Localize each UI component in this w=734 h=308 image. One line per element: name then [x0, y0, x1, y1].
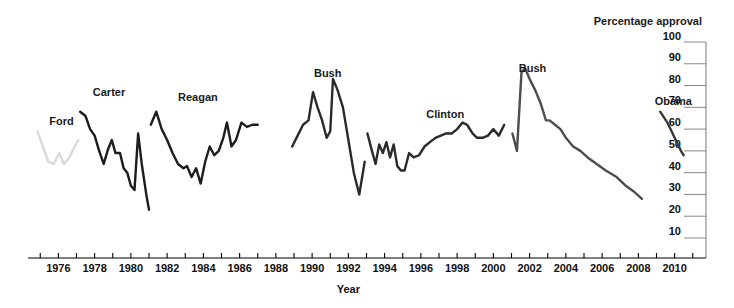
x-axis-title: Year — [337, 283, 361, 295]
x-tick-label: 1996 — [409, 262, 433, 274]
x-tick-label: 2004 — [554, 262, 579, 274]
y-tick-label: 80 — [669, 73, 681, 85]
x-tick-label: 1980 — [119, 262, 143, 274]
y-tick-label: 40 — [669, 160, 681, 172]
x-tick-label: 2010 — [662, 262, 686, 274]
series-label-ford: Ford — [49, 115, 73, 127]
series-label-carter: Carter — [93, 86, 126, 98]
y-tick-label: 90 — [669, 51, 681, 63]
series-line-clinton — [367, 123, 504, 171]
series-line-bush — [292, 79, 365, 194]
y-tick-label: 20 — [669, 203, 681, 215]
x-tick-label: 1976 — [46, 262, 70, 274]
series-line-carter — [80, 112, 149, 210]
x-tick-label: 1982 — [155, 262, 179, 274]
x-tick-label: 1992 — [336, 262, 360, 274]
y-tick-label: 30 — [669, 181, 681, 193]
x-tick-label: 2002 — [517, 262, 541, 274]
x-tick-label: 1998 — [445, 262, 469, 274]
series-label-clinton: Clinton — [426, 108, 464, 120]
x-tick-label: 1986 — [227, 262, 251, 274]
x-tick-label: 1988 — [264, 262, 288, 274]
series-line-reagan — [151, 112, 258, 184]
series-label-reagan: Reagan — [178, 91, 218, 103]
x-tick-label: 1978 — [82, 262, 106, 274]
series-label-obama: Obama — [655, 95, 693, 107]
x-tick-label: 2000 — [481, 262, 505, 274]
series-line-ford — [38, 131, 79, 164]
y-tick-label: 100 — [663, 30, 681, 42]
series-label-bush: Bush — [519, 62, 547, 74]
series-label-bush: Bush — [314, 67, 342, 79]
approval-rating-chart: Percentage approval100908070605040302010… — [0, 0, 734, 308]
chart-canvas: Percentage approval100908070605040302010… — [0, 0, 734, 308]
y-tick-label: 60 — [669, 116, 681, 128]
x-tick-label: 1984 — [191, 262, 216, 274]
chart-title: Percentage approval — [594, 15, 702, 27]
y-tick-label: 10 — [669, 225, 681, 237]
x-tick-label: 1994 — [372, 262, 397, 274]
series-line-bush — [512, 68, 642, 199]
x-tick-label: 2008 — [626, 262, 650, 274]
x-tick-label: 2006 — [590, 262, 614, 274]
x-tick-label: 1990 — [300, 262, 324, 274]
